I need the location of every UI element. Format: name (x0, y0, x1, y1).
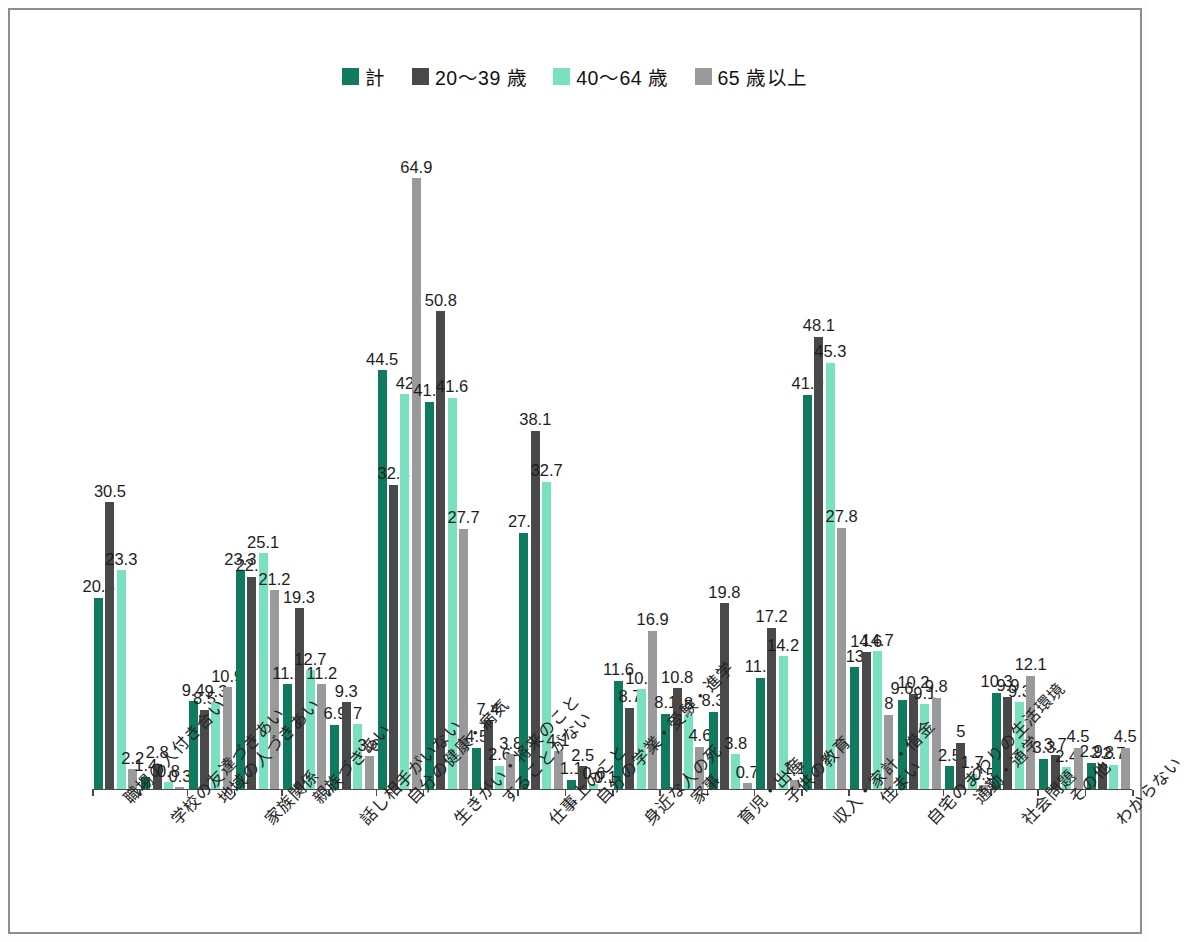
bar[interactable] (756, 678, 765, 790)
bar-column: 0.1 (600, 130, 611, 790)
bar[interactable] (814, 337, 823, 791)
bar-column: 2.8 (1097, 130, 1108, 790)
legend-label: 計 (365, 62, 386, 91)
legend-item-3[interactable]: 40〜64 歳 (553, 62, 668, 91)
bar-column: 50.8 (435, 130, 446, 790)
bar[interactable] (105, 502, 114, 790)
bar-column: 3.8 (505, 130, 516, 790)
bar-column: 12.7 (305, 130, 316, 790)
legend-swatch-icon (553, 68, 570, 85)
bar-column: 30.5 (104, 130, 115, 790)
bar-column: 8.1 (660, 130, 671, 790)
bar-column: 5 (955, 130, 966, 790)
bar-column: 1.7 (966, 130, 977, 790)
bar-column: 38.1 (530, 130, 541, 790)
legend-label: 40〜64 歳 (576, 62, 668, 91)
bar-column: 22.6 (246, 130, 257, 790)
legend-item-4[interactable]: 65 歳以上 (695, 62, 808, 91)
bar-group: 1.12.50.60.1 (565, 130, 612, 790)
bar-column: 8.7 (624, 130, 635, 790)
bar-column: 4.1 (552, 130, 563, 790)
bar-value-label: 7 (353, 705, 362, 722)
legend-label: 20〜39 歳 (435, 62, 527, 91)
chart-frame: 計20〜39 歳40〜64 歳65 歳以上 20.430.523.32.21.4… (8, 8, 1142, 934)
bar-column: 9.3 (210, 130, 221, 790)
bar-column: 27.8 (836, 130, 847, 790)
bar[interactable] (932, 698, 941, 790)
bar-column: 19.8 (719, 130, 730, 790)
bar-column: 44.5 (376, 130, 387, 790)
bar-column: 32.4 (388, 130, 399, 790)
bar-column: 64.9 (411, 130, 422, 790)
bar-group: 20.430.523.32.2 (92, 130, 139, 790)
bar-column: 9.3 (1014, 130, 1025, 790)
bar-group: 6.99.373.6 (328, 130, 375, 790)
bar[interactable] (850, 667, 859, 790)
legend-swatch-icon (412, 68, 429, 85)
bar-column: 0.6 (588, 130, 599, 790)
bar[interactable] (1121, 748, 1130, 790)
bar-column: 9.8 (931, 130, 942, 790)
bar-column: 23.3 (116, 130, 127, 790)
bar-column: 4.5 (1120, 130, 1131, 790)
bar[interactable] (803, 395, 812, 790)
bar[interactable] (412, 178, 421, 790)
bar-column: 16.9 (647, 130, 658, 790)
bar[interactable] (94, 598, 103, 790)
plot-area: 20.430.523.32.21.42.80.80.39.48.59.310.9… (92, 130, 1132, 790)
bar-column: 3.6 (363, 130, 374, 790)
bar-column: 4.5 (471, 130, 482, 790)
legend-item-2[interactable]: 20〜39 歳 (412, 62, 527, 91)
bar-column: 17.2 (766, 130, 777, 790)
bar-column: 1.1 (789, 130, 800, 790)
bar-column: 10.8 (671, 130, 682, 790)
bar-column: 23.3 (235, 130, 246, 790)
bar-column: 9.3 (341, 130, 352, 790)
bar-column: 0.8 (163, 130, 174, 790)
bar-column: 20.4 (93, 130, 104, 790)
bar-group: 9.610.29.19.8 (896, 130, 943, 790)
bar-column: 27.3 (518, 130, 529, 790)
bar-value-label: 4.5 (1114, 728, 1137, 745)
bar-column: 10.7 (636, 130, 647, 790)
bar[interactable] (400, 394, 409, 790)
bar-groups: 20.430.523.32.21.42.80.80.39.48.59.310.9… (92, 130, 1132, 790)
bar-group: 2.92.82.74.5 (1085, 130, 1132, 790)
bar-column: 2.5 (944, 130, 955, 790)
bar-column: 4.5 (1072, 130, 1083, 790)
bar-group: 1.42.80.80.3 (139, 130, 186, 790)
bar-column: 42 (399, 130, 410, 790)
bar-column: 12.1 (1025, 130, 1036, 790)
legend-label: 65 歳以上 (718, 62, 808, 91)
bar-column: 19.3 (293, 130, 304, 790)
bar-group: 9.48.59.310.9 (187, 130, 234, 790)
bar-group: 2.551.70.5 (943, 130, 990, 790)
bar-group: 23.322.625.121.2 (234, 130, 281, 790)
bar-column: 11.2 (316, 130, 327, 790)
bar-column: 14.2 (777, 130, 788, 790)
legend-swatch-icon (695, 68, 712, 85)
bar-group: 41.948.145.327.8 (801, 130, 848, 790)
bar-group: 10.39.99.312.1 (990, 130, 1037, 790)
legend-item-1[interactable]: 計 (342, 62, 386, 91)
bar-column: 13 (849, 130, 860, 790)
bar-column: 7 (352, 130, 363, 790)
bar-column: 48.1 (813, 130, 824, 790)
bar-column: 41.6 (446, 130, 457, 790)
bar-column: 14.6 (861, 130, 872, 790)
bar-column: 10.9 (222, 130, 233, 790)
bar-column: 27.7 (458, 130, 469, 790)
chart-legend: 計20〜39 歳40〜64 歳65 歳以上 (10, 62, 1140, 91)
bar-group: 41.250.841.627.7 (423, 130, 470, 790)
bar-value-label: 8 (884, 695, 893, 712)
bar[interactable] (389, 485, 398, 790)
bar-group: 1314.614.78 (848, 130, 895, 790)
bar-column: 2.6 (494, 130, 505, 790)
bar-value-label: 5 (956, 723, 965, 740)
bar-column: 2.7 (1108, 130, 1119, 790)
bar-column: 0.5 (978, 130, 989, 790)
legend-swatch-icon (342, 68, 359, 85)
bar[interactable] (720, 603, 729, 790)
bar-column: 21.2 (269, 130, 280, 790)
bar[interactable] (826, 363, 835, 790)
